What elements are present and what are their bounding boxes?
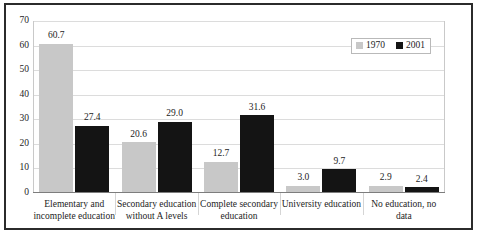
bar-group: 12.731.6 — [198, 21, 280, 193]
bar-value-label: 12.7 — [200, 149, 242, 159]
bar-2001-0[interactable] — [75, 126, 109, 193]
legend-item-2001[interactable]: 2001 — [396, 41, 425, 51]
bar-value-label: 31.6 — [236, 103, 278, 113]
category-label-2: Complete secondaryeducation — [198, 199, 280, 222]
x-axis-line — [33, 192, 445, 193]
y-axis-tick-label: 30 — [20, 115, 30, 125]
category-label-line: without A levels — [115, 211, 197, 223]
bar-value-label: 2.4 — [401, 175, 443, 185]
y-axis-tick-label: 0 — [24, 188, 29, 198]
y-axis-tick-label: 40 — [20, 90, 30, 100]
legend-label: 1970 — [366, 41, 385, 51]
bar-value-label: 20.6 — [118, 130, 160, 140]
chart-frame: 010203040506070 60.727.420.629.012.731.6… — [4, 3, 473, 230]
category-label-line: incomplete education — [33, 211, 115, 223]
category-label-line: Secondary education — [115, 199, 197, 211]
chart-legend: 19702001 — [351, 38, 431, 54]
bar-value-label: 3.0 — [282, 173, 324, 183]
legend-swatch-icon — [356, 42, 363, 49]
legend-swatch-icon — [396, 42, 403, 49]
y-axis-tick-label: 10 — [20, 164, 30, 174]
category-label-line: No education, no data — [363, 199, 445, 222]
bar-1970-0[interactable] — [39, 44, 73, 193]
category-label-0: Elementary andincomplete education — [33, 199, 115, 222]
category-label-4: No education, no data — [363, 199, 445, 222]
bar-value-label: 9.7 — [318, 157, 360, 167]
legend-item-1970[interactable]: 1970 — [356, 41, 385, 51]
bar-group: 20.629.0 — [115, 21, 197, 193]
category-label-1: Secondary educationwithout A levels — [115, 199, 197, 222]
category-label-line: Complete secondary — [198, 199, 280, 211]
y-axis-tick-label: 50 — [20, 65, 30, 75]
bar-1970-2[interactable] — [204, 162, 238, 193]
bar-value-label: 29.0 — [154, 109, 196, 119]
legend-label: 2001 — [406, 41, 425, 51]
category-label-line: University education — [280, 199, 362, 211]
y-axis-tick-label: 20 — [20, 139, 30, 149]
x-axis-category-labels: Elementary andincomplete educationSecond… — [33, 197, 445, 231]
y-axis-tick-label: 60 — [20, 41, 30, 51]
y-axis-tick-label: 70 — [20, 16, 30, 26]
bar-group: 60.727.4 — [33, 21, 115, 193]
category-label-3: University education — [280, 199, 362, 211]
category-label-line: Elementary and — [33, 199, 115, 211]
bar-value-label: 27.4 — [71, 113, 113, 123]
category-label-line: education — [198, 211, 280, 223]
bar-1970-1[interactable] — [122, 142, 156, 193]
y-axis: 010203040506070 — [6, 21, 31, 193]
bar-2001-1[interactable] — [158, 122, 192, 193]
bar-2001-3[interactable] — [322, 169, 356, 193]
bar-value-label: 60.7 — [35, 31, 77, 41]
bar-2001-2[interactable] — [240, 115, 274, 193]
